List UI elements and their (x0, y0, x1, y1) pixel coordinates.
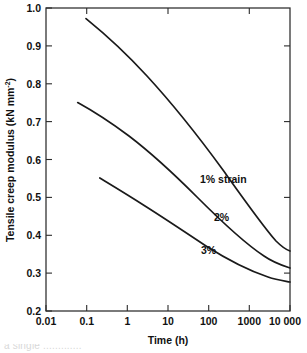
curve-3pct (100, 178, 290, 282)
series-label-1pct: 1% strain (200, 173, 247, 185)
y-axis-ticks (46, 8, 290, 311)
y-axis-title-tail: ) (4, 78, 16, 82)
y-tick-label: 0.6 (26, 154, 41, 166)
y-tick-label: 0.5 (26, 191, 41, 203)
page-bottom-artifact: a single ............. (0, 344, 307, 353)
y-axis-title: Tensile creep modulus (kN mm-2) (4, 78, 16, 242)
page-bottom-artifact-text: a single ............. (0, 344, 307, 351)
x-tick-label: 10 (162, 315, 174, 327)
series-label-3pct: 3% (201, 244, 217, 256)
x-tick-label: 100 (200, 315, 218, 327)
x-tick-label: 1000 (238, 315, 262, 327)
y-tick-label: 0.4 (26, 229, 41, 241)
x-tick-label: 10 000 (269, 315, 301, 327)
y-tick-label: 0.8 (26, 78, 41, 90)
x-axis-ticks (46, 8, 290, 311)
y-axis-title-main: Tensile creep modulus (kN mm (4, 88, 16, 242)
plot-frame (46, 8, 290, 311)
chart-svg: 1.0 0.9 0.8 0.7 0.6 0.5 0.4 0.3 0.2 0.01… (0, 0, 307, 353)
x-tick-labels: 0.01 0.1 1 10 100 1000 10 000 (36, 315, 301, 327)
x-tick-label: 0.01 (36, 315, 57, 327)
curve-2pct (78, 103, 290, 268)
y-tick-label: 0.9 (26, 40, 41, 52)
curve-1pct-strain (86, 19, 290, 251)
y-tick-label: 0.7 (26, 116, 41, 128)
x-tick-label: 1 (124, 315, 130, 327)
y-tick-label: 0.3 (26, 267, 41, 279)
series-label-2pct: 2% (214, 211, 230, 223)
y-tick-label: 1.0 (26, 2, 41, 14)
x-tick-label: 0.1 (79, 315, 94, 327)
y-tick-labels: 1.0 0.9 0.8 0.7 0.6 0.5 0.4 0.3 0.2 (26, 2, 41, 317)
creep-modulus-chart: 1.0 0.9 0.8 0.7 0.6 0.5 0.4 0.3 0.2 0.01… (0, 0, 307, 353)
